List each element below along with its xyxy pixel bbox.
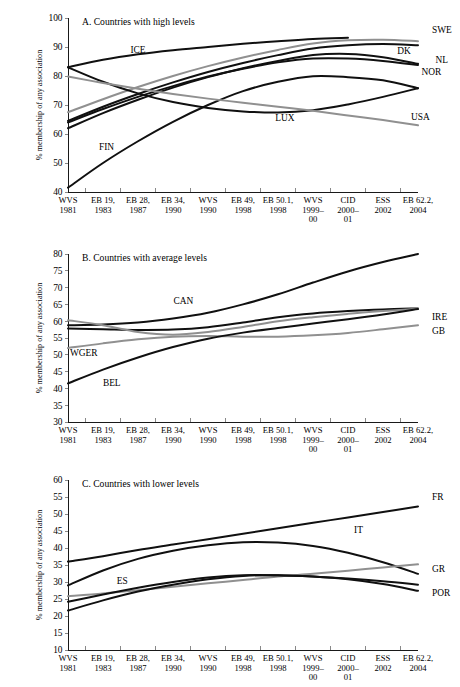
chart-panel-c: 1015202530354045505560% membership of an… bbox=[0, 460, 460, 687]
x-tick-label-line1: WVS bbox=[303, 195, 322, 205]
series-label-fin: FIN bbox=[99, 142, 114, 152]
y-tick-label: 30 bbox=[53, 577, 63, 587]
x-tick-label-line1: EB 49, bbox=[231, 653, 255, 663]
x-tick-label-line1: CID bbox=[341, 653, 356, 663]
x-tick-label-line1: WVS bbox=[303, 653, 322, 663]
y-tick-label: 70 bbox=[53, 100, 63, 110]
x-tick-label-line2: 1998 bbox=[234, 205, 251, 215]
x-tick-label-line2: 2002 bbox=[374, 435, 391, 445]
x-tick-label-line2: 1999– bbox=[302, 435, 324, 445]
series-label-swe: SWE bbox=[432, 25, 452, 35]
panel-a-svg: 405060708090100% membership of any assoc… bbox=[0, 0, 460, 232]
y-tick-label: 45 bbox=[53, 526, 63, 536]
series-label-nl: NL bbox=[436, 55, 449, 65]
x-tick-label-line2: 1990 bbox=[164, 435, 181, 445]
y-tick-label: 20 bbox=[53, 611, 63, 621]
series-label-gb: GB bbox=[432, 326, 445, 336]
x-tick-label-line1: EB 19, bbox=[91, 195, 115, 205]
y-tick-label: 80 bbox=[53, 249, 63, 259]
x-tick-label-line3: 00 bbox=[309, 672, 318, 682]
x-tick-label-line2: 1983 bbox=[94, 205, 111, 215]
x-tick-label-line2: 1998 bbox=[269, 663, 286, 673]
y-tick-label: 60 bbox=[53, 129, 63, 139]
series-line-fr bbox=[68, 507, 418, 562]
x-tick-label-line2: 1981 bbox=[59, 663, 76, 673]
chart-panel-a: 405060708090100% membership of any assoc… bbox=[0, 0, 460, 232]
x-tick-label-line1: EB 28, bbox=[126, 195, 150, 205]
y-tick-label: 60 bbox=[53, 475, 63, 485]
x-tick-label-line1: EB 49, bbox=[231, 425, 255, 435]
panel-title: A. Countries with high levels bbox=[82, 16, 195, 27]
x-tick-label-line3: 00 bbox=[309, 214, 318, 224]
series-line-bel bbox=[68, 309, 418, 383]
x-tick-label-line1: EB 34, bbox=[161, 653, 185, 663]
x-tick-label-line2: 2004 bbox=[409, 435, 427, 445]
x-tick-label-line2: 1987 bbox=[129, 663, 147, 673]
series-label-ice: ICE bbox=[130, 45, 145, 55]
y-tick-label: 35 bbox=[53, 401, 63, 411]
x-tick-label-line1: EB 19, bbox=[91, 425, 115, 435]
x-tick-label-line1: EB 62.2, bbox=[403, 653, 433, 663]
series-label-bel: BEL bbox=[103, 378, 121, 388]
x-tick-label-line1: WVS bbox=[303, 425, 322, 435]
x-tick-label-line2: 2004 bbox=[409, 663, 427, 673]
x-tick-label-line1: ESS bbox=[376, 425, 391, 435]
x-tick-label-line1: EB 28, bbox=[126, 653, 150, 663]
series-line-ice bbox=[68, 38, 348, 68]
x-tick-label-line1: EB 34, bbox=[161, 425, 185, 435]
x-tick-label-line2: 1990 bbox=[164, 663, 181, 673]
x-tick-label-line1: EB 62.2, bbox=[403, 425, 433, 435]
x-tick-label-line2: 1987 bbox=[129, 435, 147, 445]
x-tick-label-line1: WVS bbox=[198, 195, 217, 205]
x-tick-label-line1: EB 50.1, bbox=[263, 653, 293, 663]
series-label-ire: IRE bbox=[432, 312, 447, 322]
y-tick-label: 45 bbox=[53, 367, 63, 377]
x-tick-label-line3: 01 bbox=[344, 214, 353, 224]
y-tick-label: 80 bbox=[53, 71, 63, 81]
x-tick-label-line1: EB 50.1, bbox=[263, 195, 293, 205]
x-tick-label-line2: 1998 bbox=[269, 435, 286, 445]
x-tick-label-line2: 1981 bbox=[59, 435, 76, 445]
x-tick-label-line2: 2004 bbox=[409, 205, 427, 215]
x-tick-label-line1: WVS bbox=[198, 425, 217, 435]
y-tick-label: 25 bbox=[53, 594, 63, 604]
y-tick-label: 40 bbox=[53, 384, 63, 394]
y-axis-title: % membership of any association bbox=[35, 283, 44, 394]
y-axis-title: % membership of any association bbox=[35, 50, 44, 161]
panel-title: B. Countries with average levels bbox=[82, 252, 207, 263]
series-label-es: ES bbox=[117, 576, 128, 586]
x-tick-label-line2: 2000– bbox=[337, 205, 359, 215]
series-label-dk: DK bbox=[397, 46, 411, 56]
x-tick-label-line3: 01 bbox=[344, 444, 353, 454]
y-tick-label: 15 bbox=[53, 628, 63, 638]
y-tick-label: 100 bbox=[48, 13, 62, 23]
series-label-por: POR bbox=[432, 588, 451, 598]
y-tick-label: 55 bbox=[53, 333, 63, 343]
y-tick-label: 35 bbox=[53, 560, 63, 570]
y-tick-label: 50 bbox=[53, 158, 63, 168]
y-tick-label: 40 bbox=[53, 543, 63, 553]
series-label-gr: GR bbox=[432, 564, 446, 574]
x-tick-label-line1: ESS bbox=[376, 195, 391, 205]
x-tick-label-line1: WVS bbox=[198, 653, 217, 663]
series-label-fr: FR bbox=[432, 492, 444, 502]
x-tick-label-line1: WVS bbox=[58, 653, 77, 663]
x-tick-label-line1: EB 62.2, bbox=[403, 195, 433, 205]
y-tick-label: 65 bbox=[53, 300, 63, 310]
series-label-it: IT bbox=[354, 525, 363, 535]
series-label-nor: NOR bbox=[422, 67, 443, 77]
x-tick-label-line1: EB 49, bbox=[231, 195, 255, 205]
y-tick-label: 50 bbox=[53, 350, 63, 360]
figure-container: 405060708090100% membership of any assoc… bbox=[0, 0, 460, 687]
y-tick-label: 90 bbox=[53, 42, 63, 52]
x-tick-label-line2: 1998 bbox=[234, 663, 251, 673]
x-tick-label-line2: 1990 bbox=[199, 663, 216, 673]
x-tick-label-line3: 00 bbox=[309, 444, 318, 454]
x-tick-label-line1: CID bbox=[341, 425, 356, 435]
x-tick-label-line3: 01 bbox=[344, 672, 353, 682]
y-tick-label: 50 bbox=[53, 509, 63, 519]
x-tick-label-line2: 2000– bbox=[337, 663, 359, 673]
x-tick-label-line2: 1990 bbox=[199, 205, 216, 215]
chart-panel-b: 3035404550556065707580% membership of an… bbox=[0, 232, 460, 460]
x-tick-label-line2: 2000– bbox=[337, 435, 359, 445]
